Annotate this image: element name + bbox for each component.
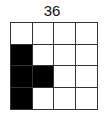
grid-cell-empty bbox=[11, 23, 33, 45]
grid-pattern bbox=[10, 22, 98, 110]
grid-cell-empty bbox=[54, 88, 76, 110]
grid-cell-empty bbox=[76, 66, 98, 88]
grid-cell-filled bbox=[11, 66, 33, 88]
grid-cell-empty bbox=[54, 45, 76, 67]
grid-cell-filled bbox=[11, 45, 33, 67]
grid-cell-empty bbox=[76, 88, 98, 110]
grid-cell-empty bbox=[76, 45, 98, 67]
grid-cell-empty bbox=[54, 23, 76, 45]
grid-cell-empty bbox=[33, 23, 55, 45]
grid-cell-empty bbox=[76, 23, 98, 45]
grid-cell-empty bbox=[33, 45, 55, 67]
figure-title: 36 bbox=[0, 2, 104, 19]
grid-cell-empty bbox=[33, 88, 55, 110]
grid-cell-filled bbox=[11, 88, 33, 110]
grid-cell-empty bbox=[54, 66, 76, 88]
grid-cell-filled bbox=[33, 66, 55, 88]
